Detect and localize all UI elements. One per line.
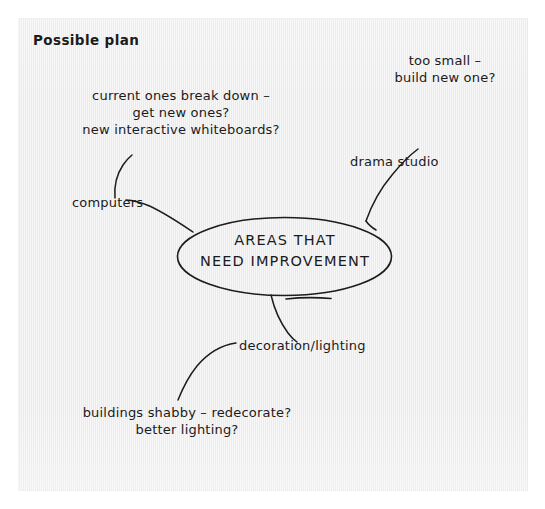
center-node-label: AREAS THAT NEED IMPROVEMENT xyxy=(185,230,385,272)
note-drama-line-2: build new one? xyxy=(383,69,507,86)
note-drama-line-1: too small – xyxy=(383,52,507,69)
center-node-line-1: AREAS THAT xyxy=(185,230,385,251)
connector-center-to-drama xyxy=(366,221,376,230)
note-decoration-lighting: buildings shabby – redecorate? better li… xyxy=(74,404,300,438)
page-title: Possible plan xyxy=(33,32,139,50)
connector-center-to-decoration xyxy=(271,295,297,342)
branch-label-decoration-lighting[interactable]: decoration/lighting xyxy=(239,337,366,354)
branch-label-drama-studio[interactable]: drama studio xyxy=(350,153,439,170)
branch-label-computers[interactable]: computers xyxy=(72,194,143,211)
ellipse-underline-mark xyxy=(286,298,331,299)
note-drama-studio: too small – build new one? xyxy=(383,52,507,86)
mindmap-page: Possible plan current ones break down – … xyxy=(0,0,545,509)
note-computers-line-2: get new ones? xyxy=(77,104,285,121)
note-decoration-line-2: better lighting? xyxy=(74,421,300,438)
connector-computers-to-notes xyxy=(115,155,132,198)
note-computers: current ones break down – get new ones? … xyxy=(77,87,285,138)
center-node-line-2: NEED IMPROVEMENT xyxy=(185,251,385,272)
note-computers-line-3: new interactive whiteboards? xyxy=(77,121,285,138)
note-decoration-line-1: buildings shabby – redecorate? xyxy=(74,404,300,421)
connector-decoration-to-notes xyxy=(178,343,236,400)
note-computers-line-1: current ones break down – xyxy=(77,87,285,104)
